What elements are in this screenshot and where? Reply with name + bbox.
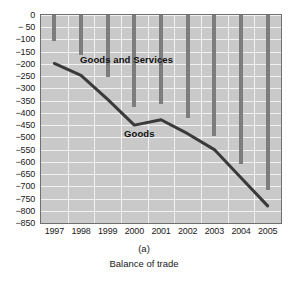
- y-tick-label: −350: [16, 96, 35, 106]
- y-tick-label: −100: [16, 34, 35, 44]
- x-tick-label: 2004: [231, 226, 250, 236]
- goods-line-layer: [41, 15, 281, 223]
- y-tick-label: − 50: [18, 22, 35, 32]
- y-tick-label: −800: [16, 206, 35, 216]
- y-axis: 0− 50−100−150−200−250−300−350−400−450−50…: [0, 0, 38, 232]
- y-tick-label: −250: [16, 71, 35, 81]
- x-axis: 199719981999200020012002200320042005: [40, 226, 282, 240]
- panel-letter: (a): [0, 243, 288, 254]
- x-tick-label: 2003: [205, 226, 224, 236]
- plot-inner: [41, 15, 281, 223]
- x-tick-label: 2000: [125, 226, 144, 236]
- figure-balance-of-trade: 0− 50−100−150−200−250−300−350−400−450−50…: [0, 0, 288, 281]
- figure-caption: Balance of trade: [0, 258, 288, 269]
- y-tick-label: −300: [16, 83, 35, 93]
- y-tick-label: 0: [30, 10, 35, 20]
- y-tick-label: −700: [16, 181, 35, 191]
- x-tick-label: 1999: [98, 226, 117, 236]
- x-tick-label: 1997: [45, 226, 64, 236]
- y-tick-label: −450: [16, 120, 35, 130]
- x-tick-label: 2005: [258, 226, 277, 236]
- x-tick-label: 2002: [178, 226, 197, 236]
- y-tick-label: −400: [16, 108, 35, 118]
- y-tick-label: −600: [16, 157, 35, 167]
- gridline-horizontal: [41, 223, 281, 224]
- y-tick-label: −750: [16, 194, 35, 204]
- y-tick-label: −200: [16, 59, 35, 69]
- x-tick-label: 1998: [71, 226, 90, 236]
- x-tick-label: 2001: [151, 226, 170, 236]
- series-label-goods: Goods: [124, 128, 155, 139]
- series-label-goods-and-services: Goods and Services: [80, 54, 173, 65]
- y-tick-label: −500: [16, 132, 35, 142]
- y-tick-label: −650: [16, 169, 35, 179]
- goods-line: [54, 63, 267, 205]
- plot-area: [40, 14, 282, 224]
- y-tick-label: −150: [16, 47, 35, 57]
- y-tick-label: −550: [16, 145, 35, 155]
- y-tick-label: −850: [16, 218, 35, 228]
